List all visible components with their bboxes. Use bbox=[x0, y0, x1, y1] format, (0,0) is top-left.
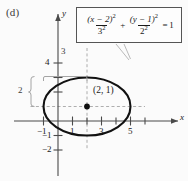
fraction-right: (y − 1)2 22 bbox=[128, 15, 160, 36]
center-point-label: (2, 1) bbox=[93, 85, 114, 95]
equation-expression: (x − 2)2 32 + (y − 1)2 22 = 1 bbox=[84, 15, 173, 36]
semi-major-annotation-label: 3 bbox=[61, 46, 66, 56]
x-tick-label-3: 3 bbox=[99, 126, 104, 136]
equation-box: (x − 2)2 32 + (y − 1)2 22 = 1 bbox=[76, 7, 182, 43]
panel-label: (d) bbox=[6, 6, 19, 18]
fraction-left-numerator-text: (x − 2) bbox=[87, 14, 112, 24]
y-tick-label-4: 4 bbox=[45, 57, 50, 67]
fraction-right-denominator: 22 bbox=[138, 25, 150, 36]
plus-operator: + bbox=[120, 21, 125, 30]
x-tick-label-1: 1 bbox=[70, 126, 75, 136]
center-point-marker bbox=[84, 104, 90, 110]
equation-rhs: 1 bbox=[169, 21, 174, 30]
fraction-left-denominator-exponent: 2 bbox=[102, 24, 105, 31]
y-tick-label--2: −2 bbox=[42, 144, 52, 154]
x-axis-label: x bbox=[180, 112, 184, 122]
y-axis-label: y bbox=[62, 8, 66, 18]
fraction-right-denominator-exponent: 2 bbox=[145, 24, 148, 31]
fraction-left: (x − 2)2 32 bbox=[85, 15, 117, 36]
semi-minor-annotation-label: 2 bbox=[18, 85, 23, 95]
fraction-right-numerator-exponent: 2 bbox=[155, 12, 158, 19]
fraction-right-numerator-text: (y − 1) bbox=[130, 14, 155, 24]
y-tick-label--1: −1 bbox=[42, 130, 52, 140]
fraction-left-numerator-exponent: 2 bbox=[112, 12, 115, 19]
x-tick-label-5: 5 bbox=[128, 126, 133, 136]
fraction-left-denominator: 32 bbox=[96, 25, 108, 36]
equals-operator: = bbox=[163, 21, 168, 30]
